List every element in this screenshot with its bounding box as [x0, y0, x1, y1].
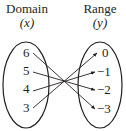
range-value: −2	[97, 82, 111, 97]
domain-value: 5	[23, 63, 30, 78]
range-value: −3	[97, 101, 111, 116]
mapping-diagram: 6 5 4 3 0 −1 −2 −3	[0, 0, 126, 131]
domain-value: 3	[23, 100, 30, 115]
domain-value: 6	[23, 45, 30, 60]
range-value: −1	[97, 64, 111, 79]
domain-value: 4	[23, 81, 30, 96]
range-value: 0	[102, 45, 109, 60]
